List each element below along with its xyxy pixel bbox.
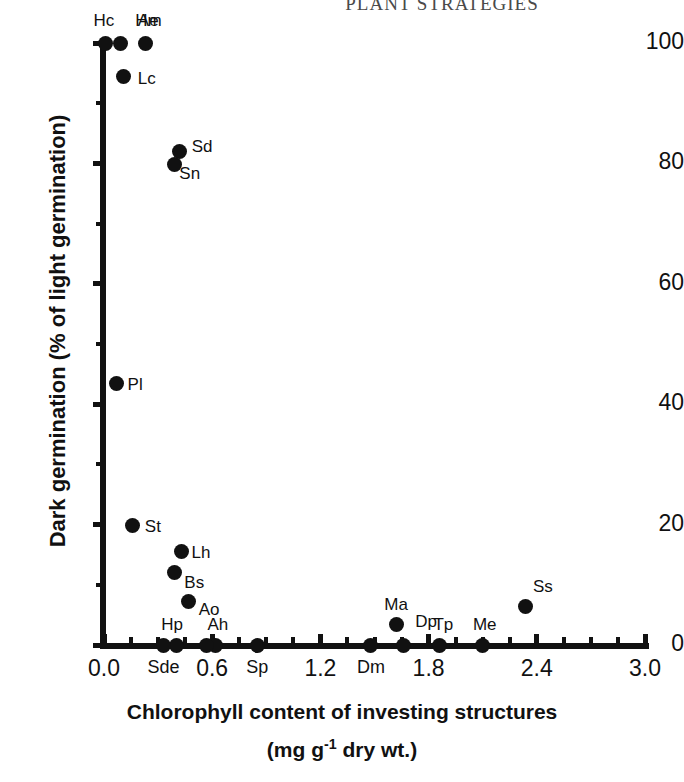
data-point-label: Sn bbox=[179, 164, 200, 184]
data-point-label: Sp bbox=[222, 657, 292, 678]
data-point-label: Me bbox=[473, 615, 497, 635]
data-point-label: Sd bbox=[192, 137, 213, 157]
x-tick-minor bbox=[291, 637, 295, 645]
x-axis-title-units-prefix: (mg g bbox=[267, 738, 324, 761]
y-tick-minor bbox=[96, 342, 104, 346]
x-tick-major bbox=[318, 634, 323, 645]
data-point-label: Sde bbox=[129, 657, 199, 678]
y-tick-label: 20 bbox=[626, 510, 684, 537]
x-tick-label: 2.4 bbox=[502, 655, 572, 682]
data-point bbox=[250, 638, 265, 653]
data-point bbox=[518, 599, 533, 614]
y-tick-major bbox=[93, 522, 104, 527]
data-point bbox=[138, 36, 153, 51]
y-tick-label: 100 bbox=[626, 28, 684, 55]
y-tick-label: 40 bbox=[626, 389, 684, 416]
data-point-label: Tp bbox=[433, 615, 453, 635]
x-axis-title: Chlorophyll content of investing structu… bbox=[40, 696, 644, 766]
data-point-label: Ss bbox=[533, 577, 553, 597]
y-tick-minor bbox=[96, 222, 104, 226]
y-tick-major bbox=[93, 402, 104, 407]
data-point bbox=[363, 638, 378, 653]
data-point bbox=[156, 638, 171, 653]
x-tick-minor bbox=[129, 637, 133, 645]
x-tick-major bbox=[534, 634, 539, 645]
data-point bbox=[432, 638, 447, 653]
x-tick-minor bbox=[183, 637, 187, 645]
data-point bbox=[174, 544, 189, 559]
data-point bbox=[113, 36, 128, 51]
scatter-chart-figure: 020406080100 0.00.61.21.82.43.0 HcAeHmLc… bbox=[0, 0, 684, 782]
x-tick-major bbox=[426, 634, 431, 645]
data-point-label: Lc bbox=[138, 69, 156, 89]
y-tick-label: 0 bbox=[626, 630, 684, 657]
y-tick-major bbox=[93, 281, 104, 286]
x-tick-minor bbox=[508, 637, 512, 645]
x-tick-label: 3.0 bbox=[610, 655, 680, 682]
data-point-label: Ah bbox=[207, 615, 228, 635]
data-point bbox=[109, 376, 124, 391]
data-point-label: Lh bbox=[192, 543, 211, 563]
data-point bbox=[396, 638, 411, 653]
x-tick-minor bbox=[345, 637, 349, 645]
x-axis-title-units-exponent: -1 bbox=[324, 736, 337, 752]
data-point bbox=[181, 594, 196, 609]
data-point-label: Bs bbox=[184, 573, 204, 593]
data-point-label: Hc bbox=[93, 11, 114, 31]
x-axis-title-line2: (mg g-1 dry wt.) bbox=[40, 728, 644, 766]
y-tick-minor bbox=[96, 462, 104, 466]
data-point bbox=[199, 638, 214, 653]
x-tick-minor bbox=[616, 637, 620, 645]
data-point bbox=[98, 36, 113, 51]
data-point bbox=[116, 69, 131, 84]
data-point bbox=[167, 565, 182, 580]
x-tick-minor bbox=[454, 637, 458, 645]
data-point bbox=[475, 638, 490, 653]
y-tick-major bbox=[93, 161, 104, 166]
y-tick-label: 60 bbox=[626, 269, 684, 296]
x-axis-title-units-suffix: dry wt.) bbox=[337, 738, 418, 761]
data-point-label: Hm bbox=[135, 11, 161, 31]
data-point-label: Ma bbox=[384, 595, 408, 615]
y-axis-title: Dark germination (% of light germination… bbox=[45, 31, 71, 631]
data-point-label: Pl bbox=[128, 375, 143, 395]
data-point bbox=[125, 518, 140, 533]
y-tick-label: 80 bbox=[626, 148, 684, 175]
data-point-label: St bbox=[145, 517, 161, 537]
x-tick-major bbox=[102, 634, 107, 645]
x-tick-minor bbox=[237, 637, 241, 645]
x-tick-minor bbox=[562, 637, 566, 645]
y-tick-minor bbox=[96, 101, 104, 105]
y-tick-minor bbox=[96, 583, 104, 587]
data-point bbox=[389, 617, 404, 632]
data-point-label: Dm bbox=[336, 657, 406, 678]
x-axis-title-line1: Chlorophyll content of investing structu… bbox=[40, 696, 644, 728]
x-tick-minor bbox=[589, 637, 593, 645]
data-point-label: Hp bbox=[161, 615, 183, 635]
x-tick-minor bbox=[264, 637, 268, 645]
